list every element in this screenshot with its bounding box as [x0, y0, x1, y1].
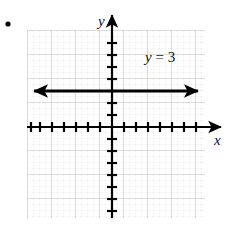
- grid: [27, 30, 205, 218]
- x-axis-label: x: [213, 132, 221, 148]
- coordinate-plane-svg: x y: [0, 0, 230, 239]
- equation-label: y = 3: [143, 49, 175, 65]
- equation-label-rest: = 3: [152, 49, 175, 65]
- grid-major-lines: [27, 30, 205, 218]
- y-axis-label: y: [96, 13, 105, 29]
- graph-figure: x y: [0, 0, 230, 239]
- list-bullet-icon: [5, 21, 10, 26]
- equation-label-variable: y: [143, 49, 152, 65]
